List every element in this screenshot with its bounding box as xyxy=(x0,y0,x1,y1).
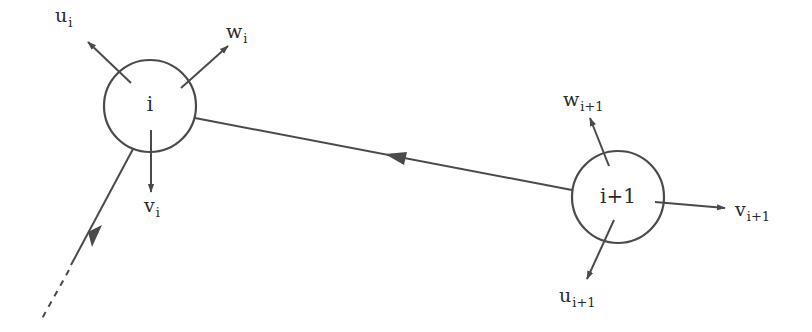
vector-u-i-arrow xyxy=(88,42,131,83)
vector-u-i-name: u xyxy=(55,4,67,26)
vector-v-i-subscript: i xyxy=(156,205,160,220)
vector-v-i-plus-1-name: v xyxy=(735,198,746,220)
vector-v-i-plus-1-label: vi+1 xyxy=(735,200,770,223)
vector-v-i-plus-1-subscript: i+1 xyxy=(747,209,770,224)
vector-u-i-plus-1-name: u xyxy=(559,284,571,306)
vector-w-i-plus-1-label: wi+1 xyxy=(563,90,604,113)
edge-line-solid xyxy=(71,149,133,265)
node-i-plus-1-label: i+1 xyxy=(600,186,636,206)
vector-u-i-plus-1-arrow xyxy=(587,220,614,279)
edge-midpoint-arrow-icon xyxy=(385,152,407,165)
edge-i-plus-1-to-i xyxy=(195,118,572,190)
vector-w-i-plus-1-subscript: i+1 xyxy=(580,99,603,114)
node-i-plus-1 xyxy=(572,118,725,279)
vector-u-i-subscript: i xyxy=(68,15,72,30)
vector-w-i-subscript: i xyxy=(243,31,247,46)
vector-w-i-arrow xyxy=(181,46,228,88)
node-i-label: i xyxy=(147,94,153,114)
diagram-canvas xyxy=(0,0,812,332)
node-i xyxy=(88,42,228,192)
vector-v-i-label: vi xyxy=(144,196,160,219)
vector-w-i-label: wi xyxy=(226,22,247,45)
vector-w-i-name: w xyxy=(226,20,242,42)
vector-v-i-plus-1-arrow xyxy=(655,202,725,208)
vector-w-i-plus-1-name: w xyxy=(563,88,579,110)
edge-line-dashed xyxy=(40,270,69,322)
vector-u-i-label: ui xyxy=(55,6,72,29)
edge-i-to-offscreen xyxy=(40,149,133,322)
vector-v-i-name: v xyxy=(144,194,155,216)
vector-u-i-plus-1-label: ui+1 xyxy=(559,286,596,309)
vector-u-i-plus-1-subscript: i+1 xyxy=(572,295,595,310)
edge-line xyxy=(195,118,572,190)
